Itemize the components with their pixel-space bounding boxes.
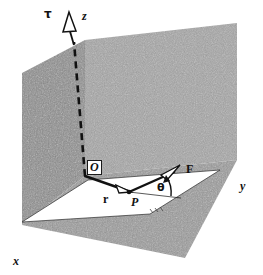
wall-right-yz-plane [85,23,237,176]
label-theta: θ [157,182,165,193]
tau-arrowhead-icon [63,12,76,32]
label-f-vector: F [186,163,193,175]
diagram-canvas [0,0,263,275]
torque-diagram-figure: τ z O r P F θ y x [0,0,263,275]
label-point-p: P [131,196,138,208]
label-y-axis: y [240,180,245,192]
label-z-axis: z [82,10,87,22]
label-x-axis: x [13,255,19,267]
label-r-vector: r [103,193,108,205]
label-origin-o: O [87,160,102,175]
label-tau: τ [44,8,52,20]
